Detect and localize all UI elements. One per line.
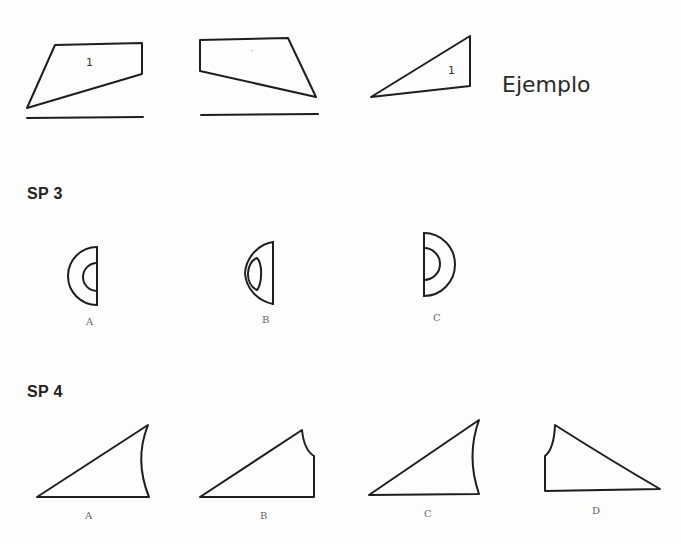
sp3-option-a-label: A [86, 316, 93, 327]
example-shape-2 [200, 38, 318, 115]
example-underline-2 [201, 114, 318, 115]
example-shape-3-number: 1 [448, 64, 455, 77]
worksheet-page: 1 · 1 Ejemplo SP 3 A B C SP 4 A B C D [0, 0, 681, 544]
example-underline-1 [27, 117, 143, 118]
sp3-option-c-figure[interactable] [424, 233, 455, 296]
sp4-option-a-figure[interactable] [37, 425, 149, 497]
sp4-title: SP 4 [27, 383, 63, 401]
sp4-option-d-label: D [592, 505, 600, 516]
example-shape-1-number: 1 [86, 56, 93, 69]
sp4-option-c-figure[interactable] [369, 420, 479, 495]
example-shape-1 [27, 43, 143, 118]
sp4-option-b-label: B [260, 510, 267, 521]
sp4-option-c-label: C [424, 508, 432, 519]
example-shape-3 [371, 36, 470, 97]
sp3-option-c-label: C [433, 312, 441, 323]
sp3-option-b-figure[interactable] [245, 242, 273, 304]
sp3-option-b-label: B [262, 314, 269, 325]
sp4-option-d-figure[interactable] [545, 425, 660, 491]
sp3-title: SP 3 [27, 185, 63, 203]
sp4-option-b-figure[interactable] [200, 430, 314, 497]
example-shape-2-number: · [250, 44, 254, 57]
sp4-option-a-label: A [85, 510, 92, 521]
sp3-option-a-figure[interactable] [68, 247, 97, 305]
example-label: Ejemplo [502, 72, 591, 97]
